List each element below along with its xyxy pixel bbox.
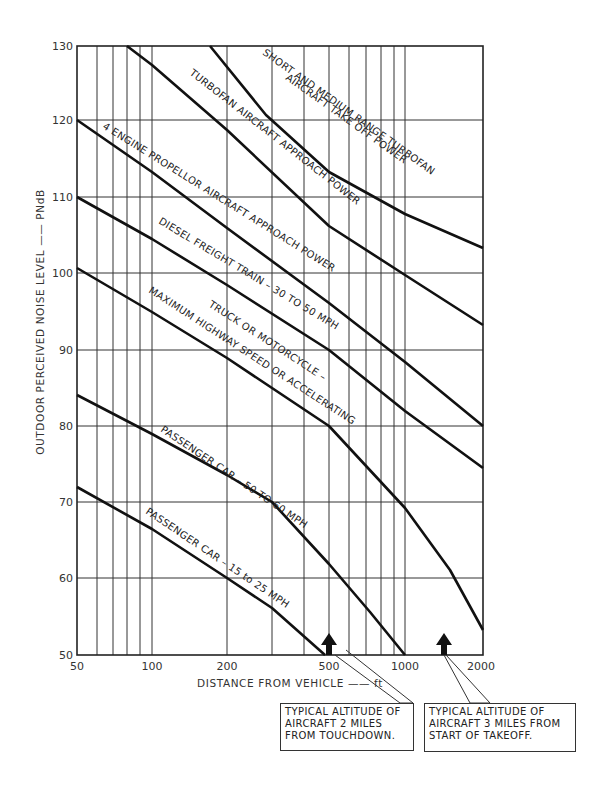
- x-tick-2000: 2000: [467, 660, 495, 673]
- noise-chart: SHORT AND MEDIUM RANGE TURBOFAN AIRCRAFT…: [0, 0, 609, 786]
- x-tick-50: 50: [70, 660, 84, 673]
- curve-passenger-car-50-60: [77, 395, 405, 655]
- callout-left-line2: AIRCRAFT 2 MILES: [285, 718, 409, 730]
- callout-aircraft-2-miles: TYPICAL ALTITUDE OF AIRCRAFT 2 MILES FRO…: [280, 703, 414, 751]
- y-tick-60: 60: [59, 572, 73, 585]
- x-tick-1000: 1000: [391, 660, 419, 673]
- y-tick-90: 90: [59, 344, 73, 357]
- x-tick-500: 500: [319, 660, 340, 673]
- curve-truck-motorcycle: [77, 268, 483, 630]
- y-tick-80: 80: [59, 420, 73, 433]
- label-curve5-line2: MAXIMUM HIGHWAY SPEED OR ACCELERATING: [147, 284, 358, 426]
- callout-left-line1: TYPICAL ALTITUDE OF: [285, 706, 409, 718]
- label-curve7: PASSENGER CAR – 15 to 25 MPH: [144, 506, 292, 611]
- y-axis-title: OUTDOOR PERCEIVED NOISE LEVEL —— PNdB: [34, 189, 46, 455]
- x-axis-ticks: 50 100 200 500 1000 2000: [70, 660, 495, 673]
- y-tick-120: 120: [52, 114, 73, 127]
- arrow-500ft-icon: [321, 633, 337, 655]
- y-tick-70: 70: [59, 496, 73, 509]
- y-tick-100: 100: [52, 267, 73, 280]
- x-tick-100: 100: [142, 660, 163, 673]
- y-tick-130: 130: [52, 40, 73, 53]
- label-curve6: PASSENGER CAR – 50 TO 60 MPH: [159, 424, 310, 531]
- callout-left-line3: FROM TOUCHDOWN.: [285, 730, 409, 742]
- x-tick-200: 200: [217, 660, 238, 673]
- callout-right-line1: TYPICAL ALTITUDE OF: [429, 706, 571, 718]
- y-tick-110: 110: [52, 191, 73, 204]
- arrow-1400ft-icon: [436, 633, 452, 655]
- callout-right-line2: AIRCRAFT 3 MILES FROM: [429, 718, 571, 730]
- y-axis-ticks: 130 120 110 100 90 80 70 60 50: [52, 40, 73, 662]
- callout-aircraft-3-miles: TYPICAL ALTITUDE OF AIRCRAFT 3 MILES FRO…: [424, 703, 576, 752]
- x-axis-title: DISTANCE FROM VEHICLE —— ft: [197, 677, 383, 689]
- callout-right-line3: START OF TAKEOFF.: [429, 730, 571, 742]
